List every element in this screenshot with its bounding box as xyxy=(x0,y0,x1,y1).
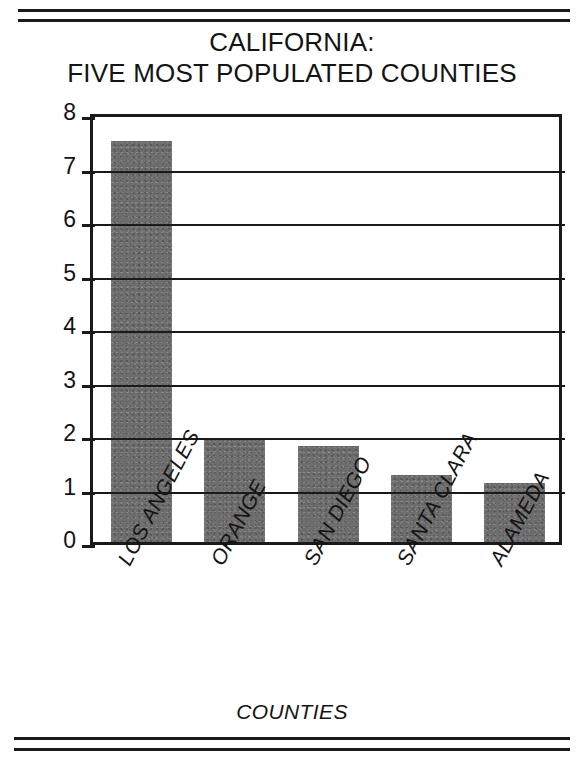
y-tick-label-2: 2 xyxy=(50,420,76,447)
gridline-5 xyxy=(93,278,565,280)
chart-title: CALIFORNIA: FIVE MOST POPULATED COUNTIES xyxy=(0,27,584,88)
gridline-3 xyxy=(93,385,565,387)
y-tick-label-4: 4 xyxy=(50,313,76,340)
y-tick-mark-5 xyxy=(82,278,95,281)
y-tick-label-7: 7 xyxy=(50,153,76,180)
y-tick-mark-8 xyxy=(82,117,95,120)
gridline-6 xyxy=(93,224,565,226)
gridline-7 xyxy=(93,171,565,173)
bottom-rule-lower xyxy=(14,748,570,751)
gridline-2 xyxy=(93,438,565,440)
y-axis-title: MILLIONS OF PEOPLE xyxy=(0,0,24,182)
top-rule-upper xyxy=(18,9,570,12)
y-tick-label-6: 6 xyxy=(50,206,76,233)
y-tick-label-8: 8 xyxy=(50,99,76,126)
y-tick-label-3: 3 xyxy=(50,367,76,394)
y-tick-label-0: 0 xyxy=(50,527,76,554)
x-axis-title: COUNTIES xyxy=(0,700,584,724)
bottom-rule-upper xyxy=(14,737,570,740)
top-rule-lower xyxy=(18,19,570,22)
chart-page: CALIFORNIA: FIVE MOST POPULATED COUNTIES… xyxy=(0,0,584,762)
y-tick-label-5: 5 xyxy=(50,260,76,287)
y-tick-mark-4 xyxy=(82,331,95,334)
chart-title-line-1: CALIFORNIA: xyxy=(0,27,584,58)
y-tick-mark-6 xyxy=(82,224,95,227)
y-tick-mark-3 xyxy=(82,385,95,388)
gridline-4 xyxy=(93,331,565,333)
y-tick-mark-1 xyxy=(82,492,95,495)
y-tick-label-1: 1 xyxy=(50,474,76,501)
chart-title-line-2: FIVE MOST POPULATED COUNTIES xyxy=(0,58,584,89)
y-tick-mark-0 xyxy=(82,545,95,548)
y-tick-mark-2 xyxy=(82,438,95,441)
y-tick-mark-7 xyxy=(82,171,95,174)
